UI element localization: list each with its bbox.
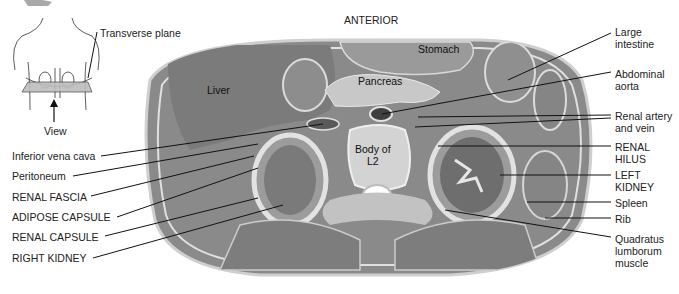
- label-rib: Rib: [615, 213, 631, 225]
- label-right-kidney: RIGHT KIDNEY: [12, 252, 86, 264]
- label-renal-capsule: RENAL CAPSULE: [12, 231, 99, 243]
- label-spleen: Spleen: [615, 197, 648, 209]
- label-left-kidney: LEFT KIDNEY: [615, 169, 654, 193]
- label-peritoneum: Peritoneum: [12, 170, 66, 182]
- label-renal-hilus: RENAL HILUS: [615, 141, 650, 165]
- label-renal-artery-vein: Renal artery and vein: [615, 110, 672, 134]
- pancreas-label: Pancreas: [358, 75, 402, 87]
- view-label: View: [44, 125, 67, 137]
- vertebra-label: Body of L2: [355, 143, 391, 167]
- anterior-label: ANTERIOR: [344, 14, 398, 26]
- inset-torso: [14, 18, 100, 110]
- label-quadratus-lumborum: Quadratus lumborum muscle: [615, 233, 664, 269]
- liver-label: Liver: [207, 84, 230, 96]
- label-renal-fascia: RENAL FASCIA: [12, 191, 87, 203]
- transverse-plane-label: Transverse plane: [100, 27, 181, 39]
- label-large-intestine: Large intestine: [615, 26, 654, 50]
- label-inferior-vena-cava: Inferior vena cava: [12, 150, 95, 162]
- cross-section-illustration: [0, 0, 679, 294]
- stomach-label: Stomach: [418, 43, 459, 55]
- label-adipose-capsule: ADIPOSE CAPSULE: [12, 211, 111, 223]
- label-abdominal-aorta: Abdominal aorta: [615, 68, 665, 92]
